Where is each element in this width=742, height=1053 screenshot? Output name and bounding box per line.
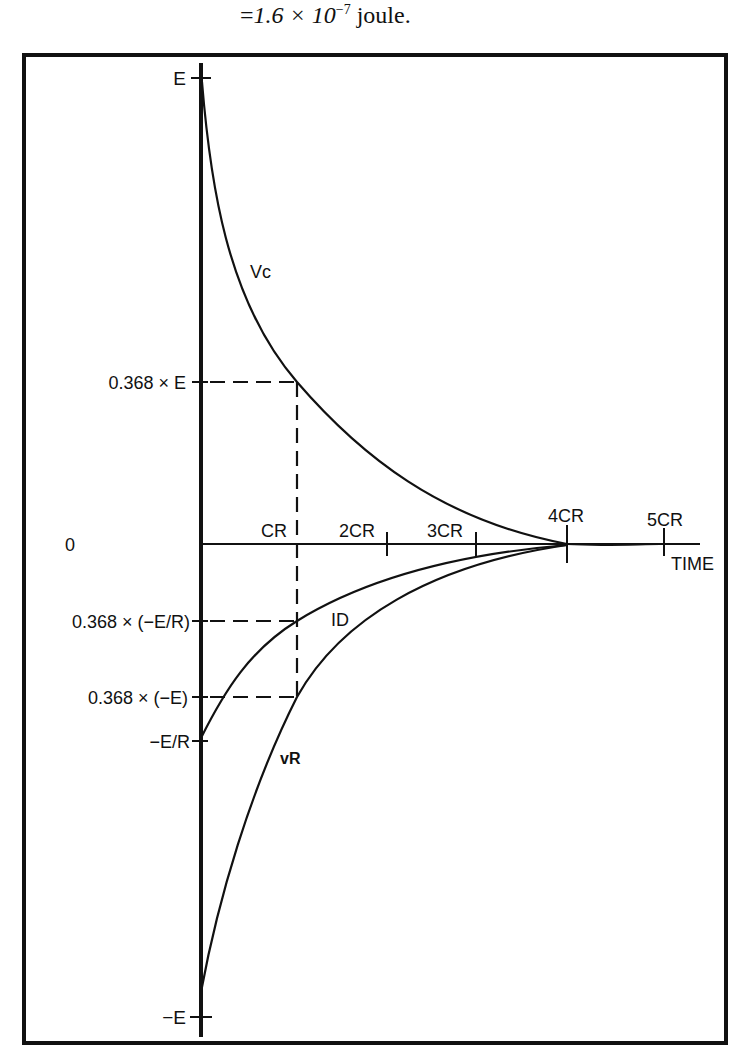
label-E: E <box>173 68 186 89</box>
label-CR: CR <box>261 521 287 541</box>
label-neg-E: −E <box>162 1007 186 1028</box>
label-3CR: 3CR <box>427 521 463 541</box>
label-time: TIME <box>671 554 714 574</box>
label-vr-curve: vR <box>280 750 301 767</box>
label-5CR: 5CR <box>647 510 683 530</box>
label-vr-tau: 0.368 × (−E) <box>88 688 188 708</box>
rc-discharge-diagram: E 0.368 × E 0 0.368 × (−E/R) 0.368 × (−E… <box>0 0 742 1053</box>
vc-curve <box>202 82 660 545</box>
label-zero: 0 <box>65 535 75 555</box>
label-id-tau: 0.368 × (−E/R) <box>72 612 190 632</box>
label-vc-curve: Vc <box>250 262 271 282</box>
label-neg-E-over-R: −E/R <box>149 732 190 752</box>
label-id-curve: ID <box>331 610 349 630</box>
label-4CR: 4CR <box>548 506 584 526</box>
vr-curve <box>201 545 567 992</box>
id-curve <box>201 545 567 738</box>
label-vc-tau: 0.368 × E <box>108 373 186 393</box>
label-2CR: 2CR <box>339 521 375 541</box>
figure-frame <box>24 55 726 1043</box>
